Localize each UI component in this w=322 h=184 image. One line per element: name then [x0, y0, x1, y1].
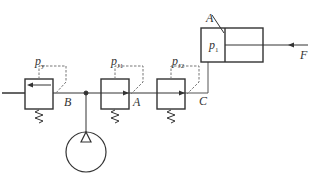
label-py: py: [35, 55, 45, 70]
pump-triangle-icon: [81, 132, 91, 142]
circuit-drawing: [0, 0, 322, 184]
spring-icon: [35, 110, 43, 123]
label-f: F: [300, 49, 307, 61]
spring-icon: [167, 110, 175, 123]
relief-valve: [2, 66, 66, 123]
label-a-top: A: [206, 12, 213, 24]
reducing-valve-j2: [157, 66, 199, 123]
label-pj2: pJ2: [172, 55, 184, 70]
force-arrow-icon: [288, 43, 294, 48]
pump: [66, 132, 106, 172]
spring-icon: [111, 110, 119, 123]
label-pj1: pJ1: [111, 55, 123, 70]
label-b: B: [64, 96, 71, 108]
label-a-mid: A: [133, 96, 140, 108]
label-p1: p1: [209, 39, 219, 54]
hydraulic-circuit-diagram: py B pJ1 A pJ2 C A p1 F: [0, 0, 322, 184]
label-c: C: [199, 95, 207, 107]
